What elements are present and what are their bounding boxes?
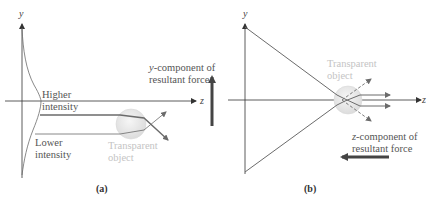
z-force-rest: -component of <box>356 131 418 142</box>
caption-b: (b) <box>304 183 316 195</box>
transparent-object-label-b-2: object <box>327 70 353 82</box>
higher-intensity-label-2: intensity <box>42 101 78 113</box>
optical-trap-diagram: y z Higher intensity Lower intensity Tra… <box>0 0 429 200</box>
y-force-label-1: y-component of <box>149 62 215 74</box>
y-force-rest: -component of <box>154 62 216 73</box>
y-axis-label-b: y <box>243 8 247 20</box>
transparent-object-label-a-1: Transparent <box>108 140 158 152</box>
caption-a: (a) <box>96 183 108 195</box>
transparent-object-label-b-1: Transparent <box>327 58 377 70</box>
y-force-label-2: resultant force <box>149 74 209 86</box>
y-axis-label-a: y <box>19 8 23 20</box>
lower-intensity-label-2: intensity <box>35 149 71 161</box>
transparent-object-a <box>116 109 146 139</box>
z-force-label-1: z-component of <box>352 131 418 143</box>
transparent-object-label-a-2: object <box>108 152 134 164</box>
higher-intensity-label-1: Higher <box>42 89 71 101</box>
lower-intensity-label-1: Lower <box>35 137 62 149</box>
z-axis-label-a: z <box>200 95 204 107</box>
z-force-label-2: resultant force <box>352 143 412 155</box>
z-axis-label-b: z <box>422 94 426 106</box>
